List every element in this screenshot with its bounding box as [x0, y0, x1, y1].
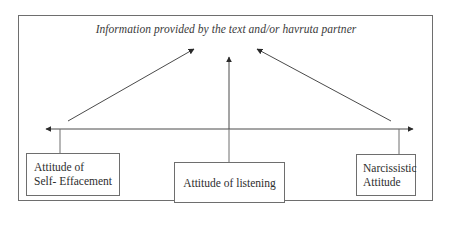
node-label: Attitude [363, 175, 415, 189]
node-listening: Attitude of listening [174, 162, 285, 203]
arrow-self-effacement-to-title [68, 49, 194, 121]
node-label: Attitude of listening [175, 176, 284, 190]
node-narcissistic: Narcissistic Attitude [356, 154, 416, 196]
arrow-narcissistic-to-title [257, 49, 391, 121]
node-label: Attitude of [34, 160, 119, 174]
node-label: Self- Effacement [34, 174, 119, 188]
node-label: Narcissistic [363, 161, 415, 175]
node-self-effacement: Attitude of Self- Effacement [26, 153, 120, 196]
